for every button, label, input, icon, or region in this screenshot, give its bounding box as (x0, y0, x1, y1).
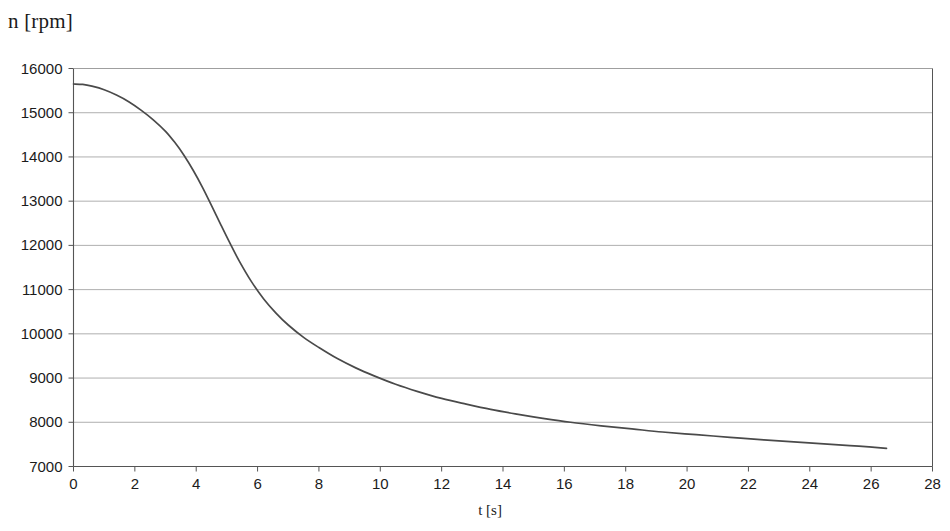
y-tick-label: 7000 (29, 458, 62, 475)
x-tick-label: 28 (924, 475, 941, 492)
y-tick-label: 14000 (21, 148, 63, 165)
chart-figure: n [rpm] 70008000900010000110001200013000… (0, 0, 950, 531)
x-tick-label: 8 (315, 475, 323, 492)
y-tick-label: 12000 (21, 236, 63, 253)
y-tick-labels-group: 7000800090001000011000120001300014000150… (21, 60, 63, 475)
series-line (74, 84, 887, 448)
y-tick-label: 16000 (21, 60, 63, 77)
x-tick-label: 22 (740, 475, 757, 492)
x-tick-label: 2 (131, 475, 139, 492)
line-chart-plot: 7000800090001000011000120001300014000150… (0, 0, 950, 531)
y-tick-label: 15000 (21, 104, 63, 121)
x-tick-label: 26 (863, 475, 880, 492)
x-tick-label: 18 (617, 475, 634, 492)
x-axis-title: t [s] (478, 502, 502, 518)
y-tick-label: 13000 (21, 192, 63, 209)
y-tick-label: 10000 (21, 325, 63, 342)
x-tick-label: 24 (801, 475, 818, 492)
x-axis-title-wrap: t [s] (0, 502, 950, 519)
y-tick-label: 11000 (22, 281, 63, 298)
data-series-group (74, 84, 887, 448)
x-tick-label: 10 (372, 475, 389, 492)
x-tick-label: 16 (556, 475, 573, 492)
x-tick-label: 14 (495, 475, 512, 492)
x-tick-labels-group: 0246810121416182022242628 (69, 475, 941, 492)
gridlines-group (74, 69, 933, 423)
x-tick-label: 4 (192, 475, 200, 492)
y-tick-label: 9000 (29, 369, 62, 386)
y-tick-label: 8000 (29, 413, 62, 430)
x-tick-label: 0 (69, 475, 77, 492)
x-tick-label: 20 (679, 475, 696, 492)
x-tick-label: 12 (433, 475, 450, 492)
axes-group (74, 69, 933, 467)
x-tick-label: 6 (253, 475, 261, 492)
